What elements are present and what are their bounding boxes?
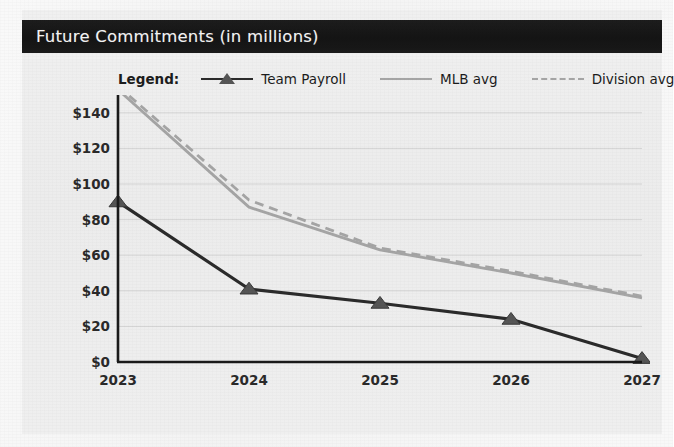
gridlines — [118, 113, 642, 327]
legend-swatch-line-icon — [201, 72, 253, 86]
y-axis-tick-label: $60 — [34, 247, 110, 263]
y-axis-tick-label: $120 — [34, 140, 110, 156]
x-axis-tick-label: 2023 — [88, 372, 148, 388]
series-line-mlb-avg — [118, 95, 642, 298]
legend-item-mlb-avg[interactable]: MLB avg — [380, 71, 498, 87]
y-axis-tick-label: $80 — [34, 212, 110, 228]
y-axis-tick-label: $40 — [34, 283, 110, 299]
x-axis-tick-label: 2024 — [219, 372, 279, 388]
series-lines — [118, 95, 642, 358]
legend-label-team-payroll: Team Payroll — [261, 71, 346, 87]
legend-label-mlb-avg: MLB avg — [440, 71, 498, 87]
x-axis-tick-label: 2026 — [481, 372, 541, 388]
chart-plot-area: $0$20$40$60$80$100$120$140 2023202420252… — [40, 95, 650, 395]
y-axis-tick-label: $0 — [34, 354, 110, 370]
legend-title: Legend: — [118, 71, 179, 87]
page-title: Future Commitments (in millions) — [22, 27, 319, 46]
legend-item-team-payroll[interactable]: Team Payroll — [201, 71, 346, 87]
legend-swatch-solid-line-icon — [380, 72, 432, 86]
chart-legend: Legend: Team Payroll MLB avg Division av… — [118, 67, 638, 91]
triangle-marker-icon — [219, 73, 235, 84]
y-axis-tick-label: $140 — [34, 105, 110, 121]
x-axis-tick-label: 2027 — [612, 372, 672, 388]
chart-title-bar: Future Commitments (in millions) — [22, 20, 662, 53]
x-axis-tick-label: 2025 — [350, 372, 410, 388]
axis-lines — [117, 95, 642, 362]
y-axis-tick-label: $100 — [34, 176, 110, 192]
legend-swatch-dashed-line-icon — [532, 72, 584, 86]
legend-item-division-avg[interactable]: Division avg — [532, 71, 674, 87]
y-axis-tick-label: $20 — [34, 318, 110, 334]
line-chart-svg — [40, 95, 650, 395]
series-line-division-avg — [118, 95, 642, 296]
legend-label-division-avg: Division avg — [592, 71, 674, 87]
